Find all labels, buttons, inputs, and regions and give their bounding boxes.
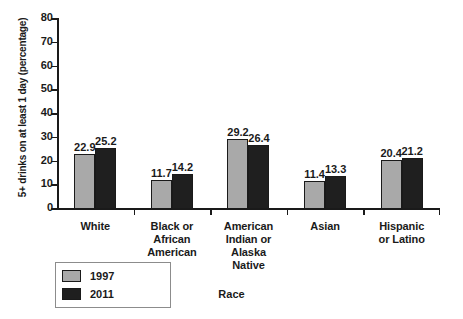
category-label-line: Native	[210, 259, 287, 272]
x-axis-separator	[210, 208, 212, 215]
bar-value-label: 26.4	[248, 132, 269, 144]
bar-value-label: 25.2	[95, 135, 116, 147]
y-tick-label: 40	[41, 106, 53, 118]
bar-group: 11.413.3	[287, 18, 364, 208]
bar-1997-hispanic-or-latino[interactable]: 20.4	[381, 160, 402, 208]
bar-group: 11.714.2	[134, 18, 211, 208]
x-axis-separator-end	[439, 208, 441, 215]
legend-swatch-icon	[62, 270, 81, 282]
category-label-hispanic-or-latino: Hispanicor Latino	[363, 220, 440, 246]
y-tick-label: 10	[41, 177, 53, 189]
y-tick-label: 20	[41, 154, 53, 166]
category-label-black-or-african-american: Black orAfricanAmerican	[134, 220, 211, 259]
bar-value-label: 29.2	[227, 126, 248, 138]
bar-value-label: 13.3	[325, 163, 346, 175]
category-label-american-indian-or-alaska-native: AmericanIndian orAlaskaNative	[210, 220, 287, 272]
bar-value-label: 22.9	[74, 141, 95, 153]
bar-2011-black-or-african-american[interactable]: 14.2	[172, 174, 193, 208]
category-label-line: Hispanic	[363, 220, 440, 233]
bar-2011-asian[interactable]: 13.3	[325, 176, 346, 208]
plot-area: 01020304050607080 22.925.211.714.229.226…	[57, 18, 440, 208]
legend-label: 1997	[90, 270, 114, 282]
bar-2011-american-indian-or-alaska-native[interactable]: 26.4	[248, 145, 269, 208]
y-tick-label: 60	[41, 59, 53, 71]
bar-group: 29.226.4	[210, 18, 287, 208]
category-label-line: Indian or	[210, 233, 287, 246]
legend-item-1997[interactable]: 1997	[62, 267, 164, 285]
y-tick-label: 50	[41, 82, 53, 94]
x-axis-separator	[134, 208, 136, 215]
y-tick-label: 30	[41, 130, 53, 142]
legend-swatch-icon	[62, 288, 81, 300]
y-tick-label: 70	[41, 35, 53, 47]
bar-2011-white[interactable]: 25.2	[95, 148, 116, 208]
x-axis-separator	[287, 208, 289, 215]
category-label-line: African	[134, 233, 211, 246]
legend-label: 2011	[90, 288, 114, 300]
category-label-asian: Asian	[287, 220, 364, 233]
y-axis-title: 5+ drinks on at least 1 day (percentage)	[17, 8, 28, 208]
bar-2011-hispanic-or-latino[interactable]: 21.2	[402, 158, 423, 208]
legend-item-2011[interactable]: 2011	[62, 285, 164, 303]
category-label-line: or Latino	[363, 233, 440, 246]
bar-value-label: 21.2	[401, 145, 422, 157]
x-axis-separator	[363, 208, 365, 215]
category-label-line: American	[210, 220, 287, 233]
category-label-line: American	[134, 246, 211, 259]
category-label-line: Asian	[287, 220, 364, 233]
bar-value-label: 11.4	[304, 168, 325, 180]
bar-group: 20.421.2	[363, 18, 440, 208]
bar-group: 22.925.2	[57, 18, 134, 208]
bar-1997-white[interactable]: 22.9	[74, 154, 95, 208]
bar-1997-american-indian-or-alaska-native[interactable]: 29.2	[227, 139, 248, 208]
bar-value-label: 11.7	[151, 167, 172, 179]
bar-value-label: 14.2	[172, 161, 193, 173]
y-tick-label: 0	[47, 201, 53, 213]
y-tick-label: 80	[41, 11, 53, 23]
legend: 19972011	[55, 262, 171, 308]
category-label-white: White	[57, 220, 134, 233]
category-label-line: Black or	[134, 220, 211, 233]
bar-1997-black-or-african-american[interactable]: 11.7	[151, 180, 172, 208]
bar-1997-asian[interactable]: 11.4	[304, 181, 325, 208]
x-axis-line	[57, 208, 440, 210]
category-label-line: Alaska	[210, 246, 287, 259]
category-label-line: White	[57, 220, 134, 233]
bar-chart: 5+ drinks on at least 1 day (percentage)…	[0, 0, 463, 319]
bar-value-label: 20.4	[380, 147, 401, 159]
